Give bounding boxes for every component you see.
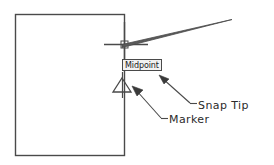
annotation-label-marker: Marker — [169, 113, 209, 126]
annotation-label-snap-tip: Snap Tip — [198, 99, 249, 112]
snap-tooltip-label: Midpoint — [125, 61, 159, 70]
snap-tooltip: Midpoint — [122, 59, 162, 71]
cad-snap-diagram: Midpoint Snap Tip Marker — [0, 0, 274, 165]
object-rectangle — [16, 15, 125, 156]
diagram-canvas — [0, 0, 274, 165]
leader-wedge-pointer — [122, 20, 232, 48]
marker-leader-arrowhead — [132, 86, 143, 96]
marker-leader-line — [136, 90, 161, 118]
